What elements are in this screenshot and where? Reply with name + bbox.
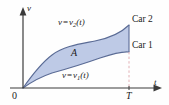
velocity-time-figure: v t 0 T A v=v2(t) v=v1(t) Car 2 Car 1: [0, 0, 169, 105]
car-2-label: Car 2: [132, 15, 153, 25]
origin-label: 0: [12, 91, 17, 101]
v-axis-label: v: [27, 4, 31, 13]
v-axis-arrowhead: [20, 7, 27, 16]
lower-curve-argument: (t): [80, 70, 89, 80]
lower-curve-equation-label: v=v1(t): [62, 71, 89, 81]
upper-curve-argument: (t): [76, 17, 85, 27]
area-label: A: [71, 48, 77, 58]
upper-curve-equation-label: v=v2(t): [58, 18, 85, 28]
t-axis-label: t: [154, 78, 157, 87]
x-tick-label-T: T: [126, 91, 132, 101]
car-1-label: Car 1: [132, 41, 153, 51]
